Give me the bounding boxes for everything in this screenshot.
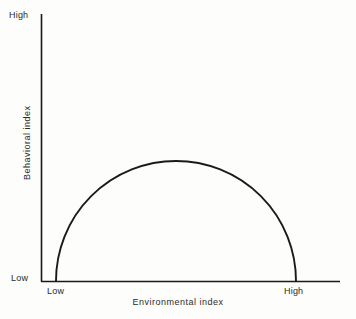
y-axis-max-label: High: [9, 11, 28, 20]
figure-container: High Low Low High Environmental index Be…: [0, 0, 356, 319]
x-axis-min-label: Low: [47, 287, 64, 296]
plot-area: [0, 0, 356, 319]
y-axis-min-label: Low: [11, 274, 28, 283]
x-axis-title: Environmental index: [0, 298, 356, 307]
data-curve-inverted-u: [56, 161, 296, 281]
x-axis-max-label: High: [284, 287, 303, 296]
